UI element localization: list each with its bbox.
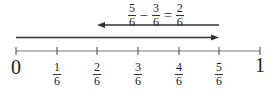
denominator: 6 xyxy=(129,17,135,28)
tick-label-2-6: 2 6 xyxy=(93,62,101,87)
forward-arrow xyxy=(16,35,219,41)
fraction-five-sixths: 5 6 xyxy=(128,3,136,28)
denominator: 6 xyxy=(153,17,159,28)
numerator: 1 xyxy=(54,62,60,73)
denominator: 6 xyxy=(54,76,60,87)
numerator: 2 xyxy=(177,3,183,14)
tick-label-5-6: 5 6 xyxy=(215,62,223,87)
numerator: 5 xyxy=(129,3,135,14)
denominator: 6 xyxy=(94,76,100,87)
denominator: 6 xyxy=(216,76,222,87)
numerator: 2 xyxy=(94,62,100,73)
label-zero: 0 xyxy=(11,57,21,77)
denominator: 6 xyxy=(176,76,182,87)
axis xyxy=(16,47,260,55)
label-one: 1 xyxy=(255,55,265,75)
denominator: 6 xyxy=(177,17,183,28)
minus-sign: − xyxy=(140,8,148,24)
fraction-three-sixths: 3 6 xyxy=(152,3,160,28)
subtraction-equation: 5 6 − 3 6 = 2 6 xyxy=(128,3,184,28)
equals-sign: = xyxy=(164,8,172,24)
tick-label-1-6: 1 6 xyxy=(53,62,61,87)
numerator: 3 xyxy=(135,62,141,73)
tick-label-4-6: 4 6 xyxy=(175,62,183,87)
denominator: 6 xyxy=(135,76,141,87)
fraction-two-sixths: 2 6 xyxy=(176,3,184,28)
tick-label-3-6: 3 6 xyxy=(134,62,142,87)
numerator: 3 xyxy=(153,3,159,14)
numerator: 5 xyxy=(216,62,222,73)
numerator: 4 xyxy=(176,62,182,73)
